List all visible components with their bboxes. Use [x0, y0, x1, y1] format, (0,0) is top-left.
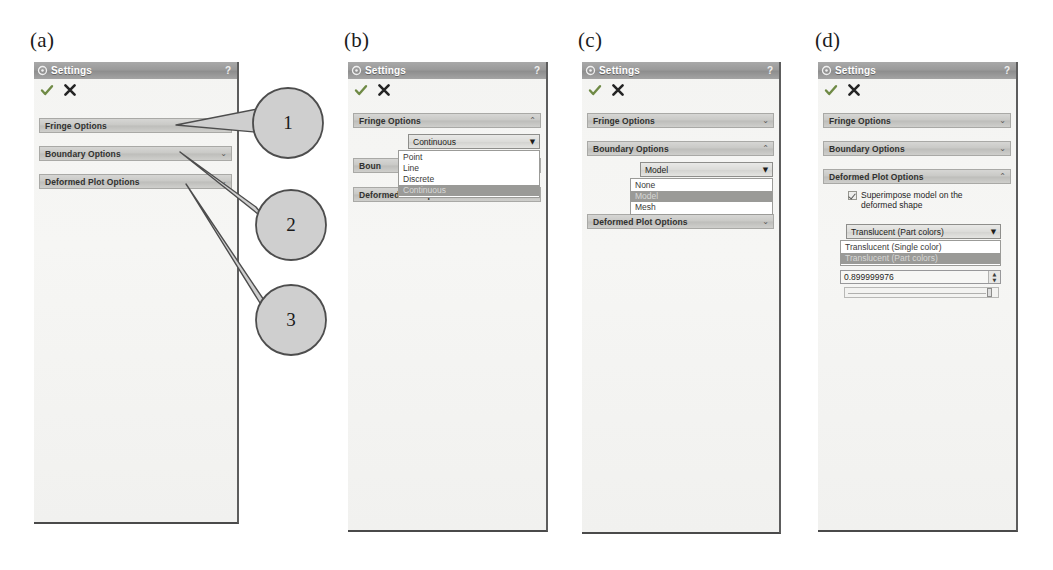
close-icon[interactable] [847, 83, 861, 97]
toolbar-c [582, 79, 779, 101]
check-icon[interactable] [354, 83, 368, 97]
settings-panel-a: Settings ? Fringe Options ⌄ Boundary Opt… [34, 62, 239, 524]
settings-panel-c: Settings ? Fringe Options ⌄ Boundary Opt… [582, 62, 781, 534]
toolbar-d [818, 79, 1016, 101]
toolbar-a [34, 79, 237, 101]
section-title: Boundary Options [45, 149, 121, 159]
boundary-style-dropdown-list[interactable]: None Model Mesh [630, 178, 773, 215]
titlebar-a: Settings ? [34, 62, 237, 79]
section-header-fringe[interactable]: Fringe Options ⌄ [587, 113, 774, 128]
settings-icon [37, 65, 48, 76]
section-title: Fringe Options [593, 116, 655, 126]
close-icon[interactable] [611, 83, 625, 97]
help-button[interactable]: ? [1004, 65, 1012, 76]
translucency-slider[interactable] [844, 287, 999, 298]
section-header-fringe[interactable]: Fringe Options ⌄ [823, 113, 1011, 128]
titlebar-d: Settings ? [818, 62, 1016, 79]
callout-number-1: 1 [278, 112, 298, 134]
superimpose-checkbox[interactable] [848, 191, 857, 200]
section-header-boundary[interactable]: Boundary Options ⌃ [587, 141, 774, 156]
section-header-boundary[interactable]: Boundary Options ⌄ [823, 141, 1011, 156]
combobox-value: Translucent (Part colors) [851, 227, 944, 237]
section-header-deformed[interactable]: Deformed Plot Options ⌄ [39, 174, 232, 189]
superimpose-checkbox-label: Superimpose model on the deformed shape [861, 190, 979, 210]
chevron-down-icon: ⌄ [220, 178, 227, 186]
panel-c-body [582, 62, 779, 532]
check-icon[interactable] [40, 83, 54, 97]
chevron-up-icon: ⌃ [529, 117, 536, 125]
chevron-up-icon: ⌃ [999, 173, 1006, 181]
chevron-down-icon: ⌄ [999, 117, 1006, 125]
section-header-deformed[interactable]: Deformed Plot Options ⌄ [587, 214, 774, 229]
close-icon[interactable] [377, 83, 391, 97]
fringe-style-combobox[interactable]: Continuous ▼ [408, 134, 540, 149]
check-icon[interactable] [588, 83, 602, 97]
section-header-fringe[interactable]: Fringe Options ⌃ [353, 113, 541, 128]
settings-icon [585, 65, 596, 76]
superimpose-checkbox-row[interactable]: Superimpose model on the deformed shape [848, 190, 998, 210]
settings-panel-b: Settings ? Fringe Options ⌃ Boun Deforme… [348, 62, 548, 532]
chevron-down-icon: ⌄ [762, 117, 769, 125]
section-title: Boundary Options [829, 144, 905, 154]
section-header-boundary[interactable]: Boundary Options ⌄ [39, 146, 232, 161]
spinner-buttons[interactable]: ▲ ▼ [988, 271, 1000, 283]
titlebar-b: Settings ? [348, 62, 546, 79]
slider-track [848, 293, 986, 294]
figure-label-c: (c) [578, 28, 602, 53]
section-title: Fringe Options [829, 116, 891, 126]
dropdown-option[interactable]: Line [399, 163, 539, 174]
chevron-up-icon: ⌃ [762, 145, 769, 153]
titlebar-c: Settings ? [582, 62, 779, 79]
spinner-value: 0.899999976 [844, 272, 894, 282]
section-title: Fringe Options [45, 121, 107, 131]
dropdown-option[interactable]: Discrete [399, 174, 539, 185]
dropdown-option-selected[interactable]: Continuous [399, 185, 539, 196]
section-header-deformed[interactable]: Deformed Plot Options ⌃ [823, 169, 1011, 184]
dropdown-option[interactable]: None [631, 180, 772, 191]
section-title: Deformed Plot Options [829, 172, 924, 182]
settings-icon [351, 65, 362, 76]
window-title: Settings [599, 65, 767, 76]
check-icon[interactable] [824, 83, 838, 97]
dropdown-option-selected[interactable]: Translucent (Part colors) [841, 253, 1000, 264]
boundary-style-combobox[interactable]: Model ▼ [640, 162, 773, 177]
section-header-fringe[interactable]: Fringe Options ⌄ [39, 118, 232, 133]
callout-number-2: 2 [281, 214, 301, 236]
fringe-style-dropdown-list[interactable]: Point Line Discrete Continuous [398, 150, 540, 198]
window-title: Settings [835, 65, 1004, 76]
figure-label-d: (d) [815, 28, 840, 53]
combobox-value: Continuous [413, 137, 456, 147]
translucency-dropdown-list[interactable]: Translucent (Single color) Translucent (… [840, 240, 1001, 266]
panel-b-body [348, 62, 546, 530]
toolbar-b [348, 79, 546, 101]
chevron-down-icon: ⌄ [762, 218, 769, 226]
chevron-down-icon: ▼ [759, 163, 772, 176]
figure-label-a: (a) [30, 28, 54, 53]
help-button[interactable]: ? [534, 65, 542, 76]
section-title: Boun [359, 161, 381, 171]
window-title: Settings [365, 65, 534, 76]
dropdown-option[interactable]: Point [399, 152, 539, 163]
settings-panel-d: Settings ? Fringe Options ⌄ Boundary Opt… [818, 62, 1018, 532]
spinner-down-icon[interactable]: ▼ [989, 277, 1000, 283]
help-button[interactable]: ? [767, 65, 775, 76]
figure-label-b: (b) [344, 28, 369, 53]
translucency-combobox[interactable]: Translucent (Part colors) ▼ [846, 224, 1001, 239]
section-title: Deformed Plot Options [593, 217, 688, 227]
section-title: Fringe Options [359, 116, 421, 126]
help-button[interactable]: ? [225, 65, 233, 76]
chevron-down-icon: ▼ [526, 135, 539, 148]
translucency-value-spinner[interactable]: 0.899999976 ▲ ▼ [840, 270, 1001, 284]
dropdown-option[interactable]: Translucent (Single color) [841, 242, 1000, 253]
close-icon[interactable] [63, 83, 77, 97]
slider-thumb[interactable] [987, 288, 992, 297]
chevron-down-icon: ⌄ [220, 150, 227, 158]
window-title: Settings [51, 65, 225, 76]
dropdown-option[interactable]: Mesh [631, 202, 772, 213]
section-title: Boundary Options [593, 144, 669, 154]
settings-icon [821, 65, 832, 76]
chevron-down-icon: ▼ [987, 225, 1000, 238]
callout-number-3: 3 [281, 309, 301, 331]
chevron-down-icon: ⌄ [999, 145, 1006, 153]
dropdown-option-selected[interactable]: Model [631, 191, 772, 202]
